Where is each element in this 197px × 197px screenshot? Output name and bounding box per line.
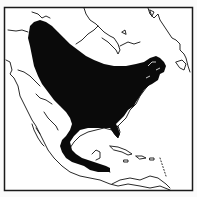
map-canvas bbox=[0, 0, 197, 197]
range-map bbox=[0, 0, 197, 197]
